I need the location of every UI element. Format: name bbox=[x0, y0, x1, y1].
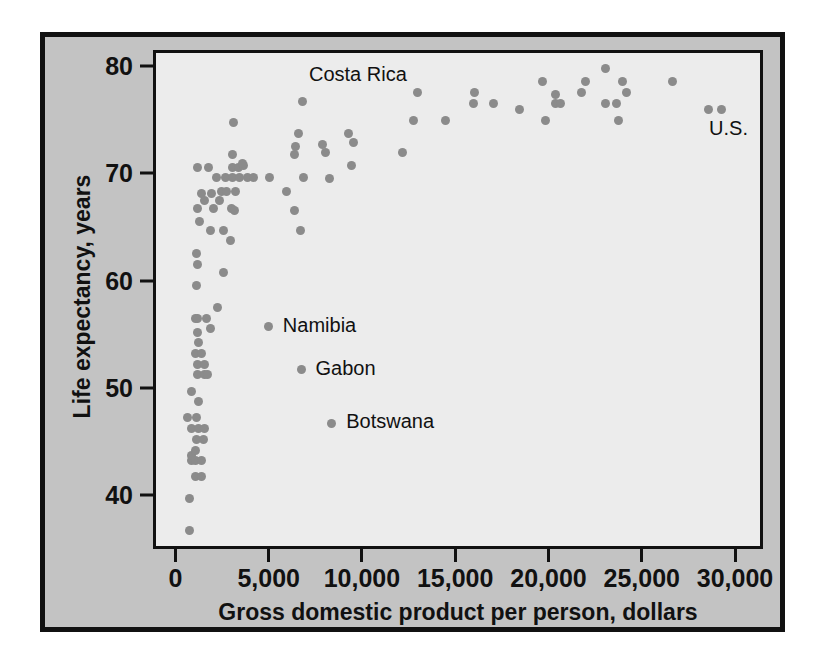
y-tick-mark bbox=[140, 494, 153, 497]
data-point bbox=[581, 77, 590, 86]
data-point bbox=[185, 494, 194, 503]
point-label-u-s: U.S. bbox=[709, 117, 748, 140]
data-point bbox=[622, 88, 631, 97]
data-point bbox=[291, 142, 300, 151]
data-point bbox=[601, 64, 610, 73]
data-point bbox=[515, 105, 524, 114]
data-point bbox=[538, 77, 547, 86]
data-point bbox=[199, 435, 208, 444]
figure-outer-frame: 4050607080 Life expectancy, years Costa … bbox=[40, 32, 785, 632]
x-axis-title: Gross domestic product per person, dolla… bbox=[153, 599, 763, 626]
data-point bbox=[193, 328, 202, 337]
data-point bbox=[612, 99, 621, 108]
data-point bbox=[193, 163, 202, 172]
x-tick-label: 25,000 bbox=[604, 564, 680, 593]
y-tick-label: 80 bbox=[105, 52, 133, 81]
y-tick-label: 50 bbox=[105, 374, 133, 403]
data-point bbox=[282, 187, 291, 196]
data-point bbox=[219, 226, 228, 235]
data-point bbox=[229, 118, 238, 127]
data-point bbox=[193, 260, 202, 269]
data-point bbox=[489, 99, 498, 108]
data-point bbox=[398, 148, 407, 157]
data-point bbox=[704, 105, 713, 114]
data-point bbox=[264, 322, 273, 331]
data-point bbox=[294, 129, 303, 138]
data-point bbox=[200, 360, 209, 369]
data-point bbox=[577, 88, 586, 97]
data-point bbox=[215, 196, 224, 205]
x-tick-mark bbox=[267, 549, 270, 562]
data-point bbox=[349, 138, 358, 147]
data-point bbox=[183, 413, 192, 422]
data-point bbox=[601, 99, 610, 108]
point-label-gabon: Gabon bbox=[315, 357, 375, 380]
x-axis-tick-labels: 05,00010,00015,00020,00025,00030,000 bbox=[153, 564, 763, 596]
data-point bbox=[344, 129, 353, 138]
data-point bbox=[187, 387, 196, 396]
data-point bbox=[195, 217, 204, 226]
data-point bbox=[193, 204, 202, 213]
data-point bbox=[200, 424, 209, 433]
y-tick-mark bbox=[140, 65, 153, 68]
data-point bbox=[192, 249, 201, 258]
data-point bbox=[194, 338, 203, 347]
data-point bbox=[206, 226, 215, 235]
data-point bbox=[551, 90, 560, 99]
data-points-layer: Costa RicaNamibiaGabonBotswanaU.S. bbox=[156, 53, 760, 546]
x-tick-mark bbox=[360, 549, 363, 562]
data-point bbox=[219, 268, 228, 277]
data-point bbox=[290, 150, 299, 159]
x-tick-label: 30,000 bbox=[697, 564, 773, 593]
x-tick-mark bbox=[547, 549, 550, 562]
y-tick-label: 40 bbox=[105, 481, 133, 510]
data-point bbox=[321, 148, 330, 157]
data-point bbox=[327, 419, 336, 428]
scatter-plot-figure: 4050607080 Life expectancy, years Costa … bbox=[0, 0, 818, 663]
x-tick-label: 0 bbox=[168, 564, 182, 593]
data-point bbox=[299, 173, 308, 182]
data-point bbox=[409, 116, 418, 125]
data-point bbox=[541, 116, 550, 125]
data-point bbox=[296, 226, 305, 235]
data-point bbox=[249, 173, 258, 182]
data-point bbox=[325, 174, 334, 183]
y-axis-tick-marks bbox=[140, 50, 153, 549]
data-point bbox=[265, 173, 274, 182]
data-point bbox=[228, 150, 237, 159]
data-point bbox=[230, 206, 239, 215]
y-tick-label: 70 bbox=[105, 159, 133, 188]
x-tick-label: 10,000 bbox=[324, 564, 400, 593]
y-axis-title: Life expectancy, years bbox=[69, 77, 96, 517]
y-tick-mark bbox=[140, 387, 153, 390]
x-tick-label: 20,000 bbox=[510, 564, 586, 593]
data-point bbox=[197, 456, 206, 465]
data-point bbox=[470, 88, 479, 97]
x-tick-mark bbox=[734, 549, 737, 562]
data-point bbox=[469, 99, 478, 108]
data-point bbox=[226, 236, 235, 245]
data-point bbox=[192, 413, 201, 422]
point-label-costa-rica: Costa Rica bbox=[309, 63, 407, 86]
x-tick-label: 15,000 bbox=[417, 564, 493, 593]
data-point bbox=[197, 472, 206, 481]
data-point bbox=[668, 77, 677, 86]
data-point bbox=[202, 314, 211, 323]
data-point bbox=[298, 97, 307, 106]
data-point bbox=[192, 281, 201, 290]
data-point bbox=[413, 88, 422, 97]
data-point bbox=[191, 446, 200, 455]
data-point bbox=[185, 526, 194, 535]
x-tick-mark bbox=[174, 549, 177, 562]
data-point bbox=[206, 324, 215, 333]
data-point bbox=[614, 116, 623, 125]
data-point bbox=[194, 397, 203, 406]
data-point bbox=[347, 161, 356, 170]
data-point bbox=[717, 105, 726, 114]
data-point bbox=[207, 189, 216, 198]
data-point bbox=[209, 204, 218, 213]
data-point bbox=[618, 77, 627, 86]
x-tick-mark bbox=[454, 549, 457, 562]
y-tick-label: 60 bbox=[105, 266, 133, 295]
data-point bbox=[441, 116, 450, 125]
